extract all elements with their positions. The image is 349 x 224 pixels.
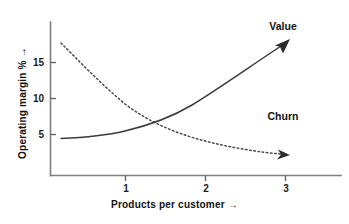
x-tick-label-3: 3 xyxy=(276,184,296,194)
chart-container: 15 10 5 1 2 3 Products per customer → Op… xyxy=(0,0,349,224)
series-label-value: Value xyxy=(253,21,313,32)
churn-curve xyxy=(61,43,281,154)
value-arrowhead xyxy=(275,39,290,54)
x-axis-title: Products per customer → xyxy=(0,200,349,210)
x-tick-label-1: 1 xyxy=(116,184,136,194)
value-curve xyxy=(61,46,281,139)
y-axis-title: Operating margin % → xyxy=(18,18,28,188)
x-tick-label-2: 2 xyxy=(196,184,216,194)
series-label-churn: Churn xyxy=(253,111,313,122)
